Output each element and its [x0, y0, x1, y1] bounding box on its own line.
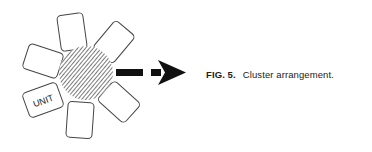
arrow-right-icon: [116, 60, 186, 85]
figure-caption: FIG. 5.Cluster arrangement.: [206, 69, 334, 80]
caption-text: Cluster arrangement.: [243, 69, 334, 80]
hatched-center-circle: [59, 46, 113, 100]
unit-card-top: [57, 12, 88, 51]
unit-card-labeled: UNIT: [22, 82, 65, 119]
cluster-diagram: UNIT: [0, 0, 200, 152]
figure-number: FIG. 5.: [206, 69, 236, 80]
unit-card-left: [22, 43, 64, 79]
unit-card-bottom: [66, 101, 94, 139]
